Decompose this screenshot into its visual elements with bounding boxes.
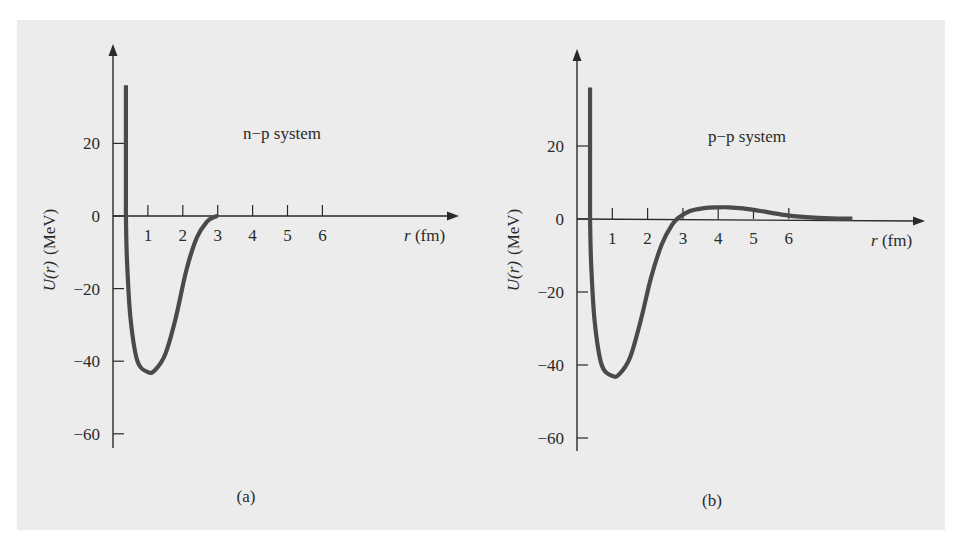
x-tick-label: 2 bbox=[643, 229, 652, 248]
y-tick-label: −40 bbox=[73, 352, 100, 371]
x-tick-label: 3 bbox=[679, 229, 688, 248]
x-tick-label: 5 bbox=[749, 229, 758, 248]
y-tick-label: −20 bbox=[537, 283, 564, 302]
system-annotation: p−p system bbox=[708, 127, 786, 146]
y-ticks: 200−20−40−60 bbox=[537, 137, 588, 448]
y-tick-label: −60 bbox=[73, 425, 100, 444]
y-tick-label: −40 bbox=[537, 356, 564, 375]
x-axis-arrow-icon bbox=[447, 212, 459, 221]
figure: 200−20−40−60 123456 n−p system r (fm) U(… bbox=[0, 0, 966, 557]
x-ticks: 123456 bbox=[608, 208, 793, 248]
y-tick-label: 0 bbox=[556, 210, 565, 229]
x-axis-title: r (fm) bbox=[871, 231, 912, 250]
x-tick-label: 4 bbox=[714, 229, 723, 248]
x-tick-label: 4 bbox=[248, 226, 257, 245]
potential-curve-line bbox=[126, 85, 218, 373]
y-tick-label: 0 bbox=[92, 207, 101, 226]
system-annotation: n−p system bbox=[243, 124, 321, 143]
y-axis-arrow-icon bbox=[573, 49, 582, 61]
x-tick-label: 2 bbox=[179, 226, 188, 245]
panel-a-np-system: 200−20−40−60 123456 n−p system r (fm) U(… bbox=[40, 44, 459, 506]
panel-label-a: (a) bbox=[237, 487, 256, 506]
y-ticks: 200−20−40−60 bbox=[73, 134, 124, 443]
y-axis-title: U(r)(MeV) bbox=[40, 209, 59, 291]
x-axis bbox=[577, 219, 916, 221]
panel-b-pp-system: 200−20−40−60 123456 p−p system r (fm) U(… bbox=[504, 49, 925, 510]
y-tick-label: 20 bbox=[83, 134, 100, 153]
x-axis-arrow-icon bbox=[913, 217, 925, 226]
x-tick-label: 3 bbox=[213, 226, 222, 245]
x-tick-label: 6 bbox=[318, 226, 327, 245]
panel-label-b: (b) bbox=[702, 491, 722, 510]
y-axis-arrow-icon bbox=[109, 44, 118, 56]
x-axis-title: r (fm) bbox=[404, 226, 445, 245]
x-tick-label: 1 bbox=[608, 229, 617, 248]
x-ticks: 123456 bbox=[144, 205, 327, 245]
x-tick-label: 5 bbox=[283, 226, 292, 245]
x-tick-label: 6 bbox=[785, 229, 794, 248]
y-tick-label: −60 bbox=[537, 429, 564, 448]
y-axis-title: U(r)(MeV) bbox=[504, 209, 523, 291]
y-tick-label: −20 bbox=[73, 280, 100, 299]
y-tick-label: 20 bbox=[547, 137, 564, 156]
potential-curve bbox=[126, 85, 218, 373]
x-tick-label: 1 bbox=[144, 226, 153, 245]
